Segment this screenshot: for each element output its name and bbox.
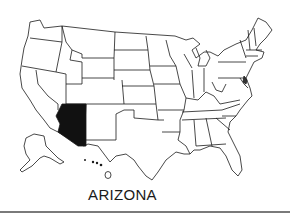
state-name-caption: ARIZONA [0, 186, 245, 203]
us-map [0, 0, 290, 190]
us-contiguous-outline [20, 18, 272, 180]
inset-alaska [20, 134, 64, 172]
state-arizona [56, 104, 86, 146]
inset-hawaii [84, 159, 111, 179]
divider-rule [0, 211, 290, 213]
